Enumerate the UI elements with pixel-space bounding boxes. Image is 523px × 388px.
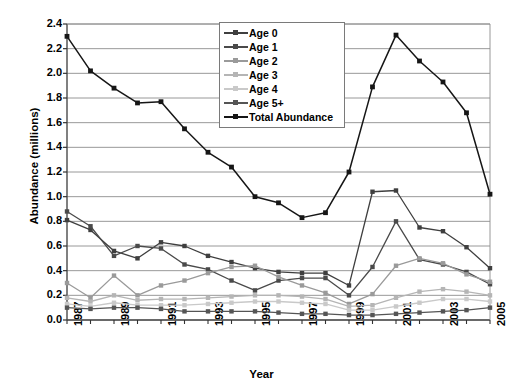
legend-item-label: Age 3: [249, 69, 278, 81]
legend-item-label: Age 2: [249, 55, 278, 67]
legend-item[interactable]: Age 1: [223, 40, 340, 54]
legend-item-label: Age 0: [249, 27, 278, 39]
chart-legend: Age 0Age 1Age 2Age 3Age 4Age 5+Total Abu…: [219, 22, 345, 128]
abundance-line-chart: Abundance (millions) Year 0.00.20.40.60.…: [0, 0, 523, 388]
legend-marker-icon: [223, 83, 249, 95]
legend-item-label: Age 1: [249, 41, 278, 53]
legend-item[interactable]: Age 0: [223, 26, 340, 40]
series-line: [65, 305, 492, 317]
legend-item-label: Total Abundance: [249, 111, 333, 123]
series-line: [65, 209, 492, 297]
legend-marker-icon: [223, 55, 249, 67]
legend-item-label: Age 5+: [249, 97, 284, 109]
series-line: [65, 297, 492, 312]
legend-marker-icon: [223, 41, 249, 53]
legend-item[interactable]: Age 5+: [223, 96, 340, 110]
legend-item[interactable]: Total Abundance: [223, 110, 340, 124]
legend-item-label: Age 4: [249, 83, 278, 95]
legend-marker-icon: [223, 97, 249, 109]
legend-marker-icon: [223, 111, 249, 123]
legend-item[interactable]: Age 3: [223, 68, 340, 82]
legend-marker-icon: [223, 27, 249, 39]
series-line: [65, 287, 492, 309]
legend-item[interactable]: Age 2: [223, 54, 340, 68]
legend-item[interactable]: Age 4: [223, 82, 340, 96]
legend-marker-icon: [223, 69, 249, 81]
